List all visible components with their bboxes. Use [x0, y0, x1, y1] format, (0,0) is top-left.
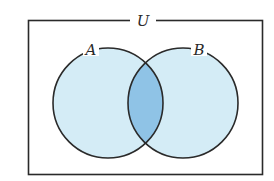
set-b-label: B — [192, 41, 204, 59]
set-a-label: A — [84, 41, 97, 59]
universe-label: U — [137, 12, 151, 30]
venn-diagram: U A B — [0, 0, 274, 181]
